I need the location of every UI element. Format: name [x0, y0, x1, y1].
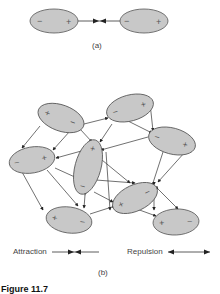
- dipole-right-mid: − +: [145, 122, 198, 160]
- legend-attraction-arrow-icon: [52, 250, 99, 255]
- svg-text:+: +: [66, 17, 71, 27]
- svg-text:+: +: [156, 17, 161, 27]
- part-a-label: (a): [92, 41, 102, 50]
- dipole-bottom-left: + −: [44, 204, 93, 236]
- attraction-arrowhead-icon: [93, 19, 99, 24]
- part-b-dipoles: + − − + − + − + + − − + +: [7, 89, 200, 236]
- svg-text:−: −: [37, 16, 42, 26]
- part-b-label: (b): [98, 268, 108, 277]
- legend-repulsion-label: Repulsion: [127, 247, 163, 256]
- dipole-bottom-right: + −: [152, 208, 199, 236]
- svg-text:+: +: [159, 218, 165, 228]
- dipole-a-left: − +: [30, 9, 78, 33]
- dipole-left-mid: − +: [7, 143, 57, 177]
- svg-text:−: −: [187, 216, 193, 226]
- legend-repulsion-arrow-icon: [168, 250, 210, 255]
- dipole-center: + −: [68, 137, 108, 198]
- dipole-top-right: − +: [103, 89, 156, 127]
- legend-attraction-label: Attraction: [13, 247, 47, 256]
- part-a-diagram: − + − +: [30, 9, 168, 33]
- dipole-a-right: − +: [120, 9, 168, 33]
- figure-caption: Figure 11.7: [1, 284, 48, 294]
- svg-text:−: −: [124, 16, 129, 26]
- attraction-arrowhead-icon: [100, 19, 106, 24]
- dipole-top-left: + −: [34, 98, 88, 139]
